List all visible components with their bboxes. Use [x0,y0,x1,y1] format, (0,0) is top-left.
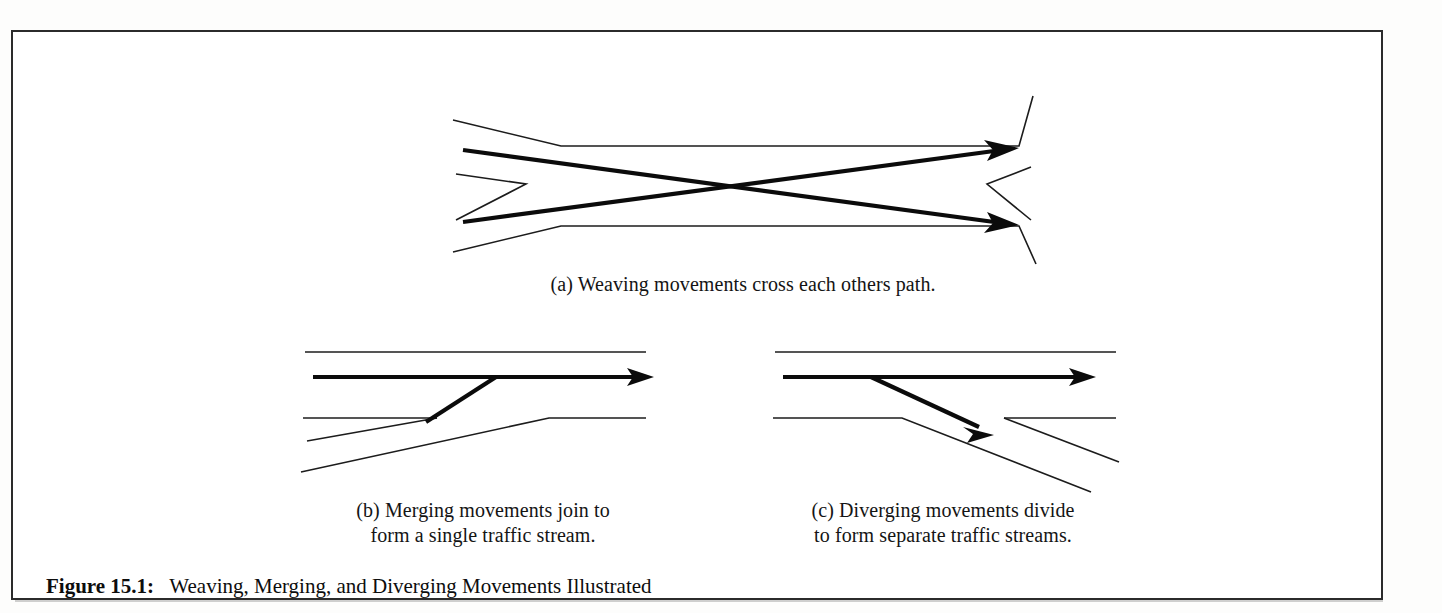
caption-merging: (b) Merging movements join to form a sin… [263,498,703,548]
diverging-svg [761,317,1171,492]
caption-diverging: (c) Diverging movements divide to form s… [723,498,1163,548]
figure-number-label: Figure 15.1: [46,574,154,598]
diverge-left-lane-edge [773,418,1091,492]
merging-svg [291,317,691,482]
merge-ramp-arrow-shaft [426,377,496,422]
merge-gore-nose [307,418,437,441]
figure-page: (a) Weaving movements cross each others … [0,0,1442,613]
weave-right-gore-wedge [987,167,1031,220]
figure-title-text: Weaving, Merging, and Diverging Movement… [169,574,651,598]
figure-caption-line: Figure 15.1: Weaving, Merging, and Diver… [46,573,652,599]
diverging-diagram [761,317,1171,492]
weave-lower-left-ramp-edge [453,226,906,252]
merge-ramp-outer-edge [301,418,646,472]
merging-diagram [291,317,691,482]
weave-upper-right-ramp-edge [906,96,1033,146]
weave-upper-left-ramp-edge [453,120,906,146]
diverge-ramp-arrow-shaft [871,377,979,427]
weave-lower-right-ramp-edge [906,226,1036,264]
diverge-ramp-inner-edge [1004,418,1119,462]
weaving-svg [431,52,1051,252]
weaving-diagram [431,52,1051,252]
figure-frame: (a) Weaving movements cross each others … [11,30,1383,600]
diverge-ramp-arrow-head [963,427,994,443]
caption-weaving: (a) Weaving movements cross each others … [313,272,1173,297]
